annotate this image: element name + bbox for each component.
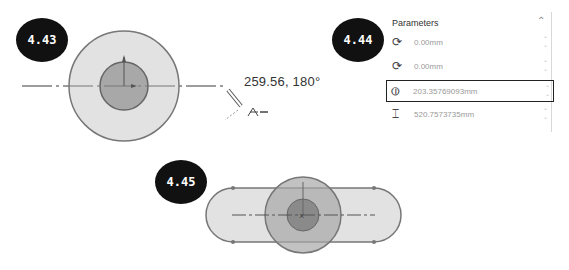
length-value[interactable]: 520.7573735mm — [414, 110, 539, 119]
pencil-cursor-icon — [225, 90, 241, 120]
figure-badge-4-44: 4.44 — [332, 18, 384, 62]
relation-icon — [248, 108, 268, 116]
center-y-icon: ⟳ — [392, 59, 414, 73]
center-y-value[interactable]: 0.00mm — [414, 62, 539, 71]
center-x-icon: ⟳ — [392, 35, 414, 49]
figure-4-45-slot: × — [206, 177, 401, 253]
param-row-center-x[interactable]: ⟳ 0.00mm ⌃⌄ — [388, 32, 551, 52]
param-row-center-y[interactable]: ⟳ 0.00mm ⌃⌄ — [388, 56, 551, 76]
chevron-up-icon[interactable]: ⌃ — [537, 15, 545, 26]
center-x-value[interactable]: 0.00mm — [414, 38, 539, 47]
coordinate-readout: 259.56, 180° — [244, 74, 320, 89]
panel-title: Parameters — [392, 18, 439, 28]
parameters-panel: Parameters ⌃ ⟳ 0.00mm ⌃⌄ ⟳ 0.00mm ⌃⌄ ⦶ 2… — [388, 12, 552, 132]
spinner-icon[interactable]: ⌃⌄ — [539, 108, 551, 120]
diameter-icon: ⦶ — [391, 84, 413, 98]
svg-text:×: × — [299, 211, 304, 221]
param-row-diameter[interactable]: ⦶ 203.35769093mm ⌃⌄ — [386, 80, 554, 102]
diameter-value[interactable]: 203.35769093mm — [413, 87, 541, 96]
figure-badge-4-45: 4.45 — [155, 160, 207, 204]
param-row-length[interactable]: ⌶ 520.7573735mm ⌃⌄ — [388, 104, 551, 124]
spinner-icon[interactable]: ⌃⌄ — [539, 60, 551, 72]
figure-badge-4-43: 4.43 — [16, 18, 68, 62]
spinner-icon[interactable]: ⌃⌄ — [539, 36, 551, 48]
spinner-icon[interactable]: ⌃⌄ — [541, 85, 553, 97]
length-icon: ⌶ — [392, 107, 414, 121]
